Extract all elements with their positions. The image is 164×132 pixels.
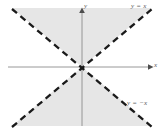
x-axis-label: x [154,62,157,69]
line-label-y-equals-negative-x: y = −x [127,100,147,107]
x-axis-arrowhead [148,64,154,70]
line-label-y-equals-x: y = x [131,3,146,10]
plot-canvas [0,0,164,132]
graph-figure: y x y = x y = −x [0,0,164,132]
y-axis-label: y [84,3,87,10]
